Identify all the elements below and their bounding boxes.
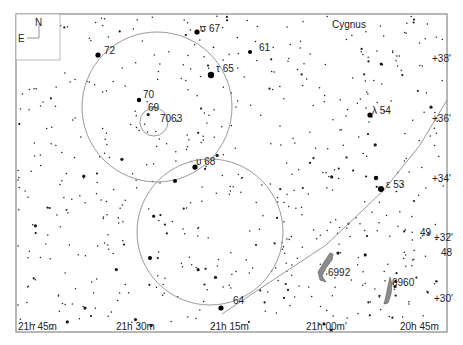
star	[339, 99, 341, 101]
star	[365, 31, 367, 33]
star	[213, 47, 215, 49]
star	[389, 236, 391, 238]
bright-star	[208, 72, 214, 78]
star	[422, 65, 424, 67]
star	[411, 216, 413, 218]
star	[91, 281, 93, 283]
star	[357, 102, 359, 104]
star-label: υ 68	[196, 156, 216, 167]
star	[201, 201, 203, 203]
star	[442, 39, 444, 41]
star	[413, 250, 415, 252]
star	[403, 258, 405, 260]
star	[270, 143, 272, 145]
star	[335, 219, 337, 221]
star	[273, 71, 275, 73]
star	[427, 291, 429, 293]
star	[286, 162, 288, 164]
star	[302, 187, 304, 189]
star	[222, 59, 224, 61]
star	[187, 146, 189, 148]
star	[392, 50, 394, 52]
star-label: σ 67	[200, 23, 221, 34]
star	[309, 162, 311, 164]
star	[298, 285, 300, 287]
star	[412, 259, 414, 261]
star	[401, 74, 403, 76]
star	[226, 16, 228, 18]
star	[397, 65, 399, 67]
star	[187, 316, 189, 318]
star	[358, 136, 360, 138]
star	[327, 148, 329, 150]
star	[119, 292, 121, 294]
bright-star	[194, 29, 199, 34]
star	[153, 163, 155, 165]
star	[18, 209, 20, 211]
ra-label: 21h 00m'	[306, 321, 347, 332]
star	[186, 149, 188, 151]
star	[226, 19, 228, 21]
star	[89, 38, 91, 40]
star	[418, 140, 420, 142]
star	[119, 208, 121, 210]
star	[410, 16, 412, 18]
star	[35, 88, 37, 90]
star-label: 7063	[160, 113, 183, 124]
star	[343, 144, 345, 146]
star	[290, 44, 292, 46]
star	[188, 139, 190, 141]
star	[240, 192, 242, 194]
star	[261, 184, 263, 186]
star	[96, 193, 98, 195]
star	[190, 68, 192, 70]
star	[29, 250, 31, 252]
star	[46, 128, 48, 130]
star	[30, 170, 32, 172]
star	[50, 97, 52, 99]
star	[200, 142, 202, 144]
star	[397, 225, 399, 227]
star	[276, 312, 278, 314]
star	[20, 108, 22, 110]
star	[256, 60, 258, 62]
star	[259, 229, 261, 231]
star	[195, 318, 197, 320]
star	[434, 128, 436, 130]
star	[286, 26, 288, 28]
star	[117, 300, 119, 302]
star	[157, 275, 159, 277]
star	[64, 72, 66, 74]
star	[367, 60, 369, 62]
star	[441, 80, 443, 82]
star	[96, 172, 98, 174]
star	[379, 202, 381, 204]
star	[430, 135, 432, 137]
star	[302, 85, 304, 87]
star	[102, 128, 104, 130]
star	[119, 30, 121, 32]
star	[309, 131, 311, 133]
star	[95, 22, 97, 24]
star	[389, 316, 391, 318]
star	[186, 207, 188, 209]
star	[128, 292, 130, 294]
star	[97, 245, 99, 247]
star	[325, 64, 327, 66]
star	[287, 61, 289, 63]
dec-label: +30'	[434, 293, 453, 304]
star	[365, 80, 367, 82]
star	[40, 105, 42, 107]
star	[74, 79, 76, 81]
chart-frame	[16, 14, 447, 332]
star	[320, 306, 322, 308]
star	[235, 271, 237, 273]
star	[228, 284, 230, 286]
star	[229, 193, 231, 195]
bright-star	[218, 305, 223, 310]
star	[230, 190, 232, 192]
ra-label: 21h 45m	[18, 321, 57, 332]
star	[216, 16, 218, 18]
star-label: λ 54	[372, 105, 391, 116]
star	[285, 263, 287, 265]
